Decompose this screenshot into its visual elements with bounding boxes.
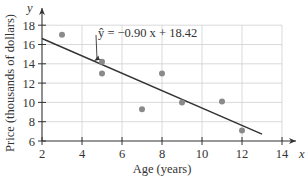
data-point [219, 98, 225, 104]
x-tick-label: 8 [159, 147, 165, 161]
x-tick-label: 6 [119, 147, 125, 161]
x-axis-symbol: x [298, 147, 305, 161]
equation-annotation: ŷ = −0.90 x + 18.42 [94, 26, 197, 61]
data-points [59, 32, 245, 134]
y-tick-label: 8 [29, 115, 35, 129]
equation-label: ŷ = −0.90 x + 18.42 [98, 26, 197, 40]
y-axis-symbol: y [25, 1, 33, 15]
y-tick-label: 16 [23, 38, 36, 52]
regression-line [42, 39, 262, 135]
data-point [239, 127, 245, 133]
y-tick-label: 18 [23, 19, 36, 33]
x-axis-title: Age (years) [133, 162, 192, 176]
x-tick-label: 10 [196, 147, 209, 161]
y-tick-label: 6 [29, 135, 35, 149]
y-tick-label: 10 [23, 96, 36, 110]
annotation-leader [96, 35, 97, 59]
tick-labels: 2468101214681012141618 [23, 19, 290, 161]
scatter-chart: 2468101214681012141618 ŷ = −0.90 x + 18.… [0, 0, 307, 179]
x-tick-label: 2 [39, 147, 45, 161]
y-axis-title: Price (thousands of dollars) [3, 14, 17, 152]
data-point [59, 32, 65, 38]
x-tick-label: 4 [79, 147, 86, 161]
data-point [139, 106, 145, 112]
y-tick-label: 12 [23, 77, 36, 91]
data-point [179, 99, 185, 105]
data-point [99, 70, 105, 76]
regression-line-path [42, 39, 262, 135]
grid [42, 25, 282, 141]
x-tick-label: 14 [276, 147, 289, 161]
y-tick-label: 14 [23, 57, 36, 71]
x-tick-label: 12 [236, 147, 249, 161]
data-point [159, 70, 165, 76]
